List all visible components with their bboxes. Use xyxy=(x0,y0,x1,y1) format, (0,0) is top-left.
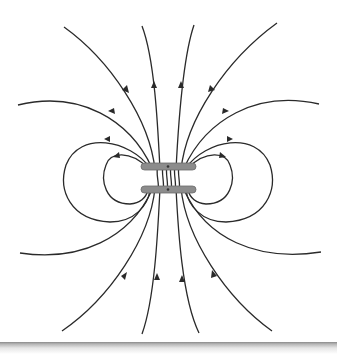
coils xyxy=(141,163,196,193)
field-lines-right xyxy=(184,101,321,255)
arrow-icon xyxy=(227,136,233,142)
arrow-icon xyxy=(104,136,110,142)
current-marker-icon xyxy=(167,188,170,191)
arrow-icon xyxy=(113,152,120,158)
arrow-icon xyxy=(151,81,157,88)
arrow-icon xyxy=(219,152,226,158)
bottom-shadow xyxy=(0,342,337,354)
arrow-icon xyxy=(122,85,129,93)
field-lines-top xyxy=(64,23,277,170)
current-marker-icon xyxy=(167,165,170,168)
direction-arrows xyxy=(104,81,233,282)
field-lines-left xyxy=(18,101,152,255)
arrow-icon xyxy=(121,272,127,280)
arrow-icon xyxy=(154,273,160,280)
magnetic-field-diagram xyxy=(0,0,337,354)
arrow-icon xyxy=(222,108,229,114)
arrow-icon xyxy=(108,108,115,114)
field-lines-bottom xyxy=(62,188,272,334)
